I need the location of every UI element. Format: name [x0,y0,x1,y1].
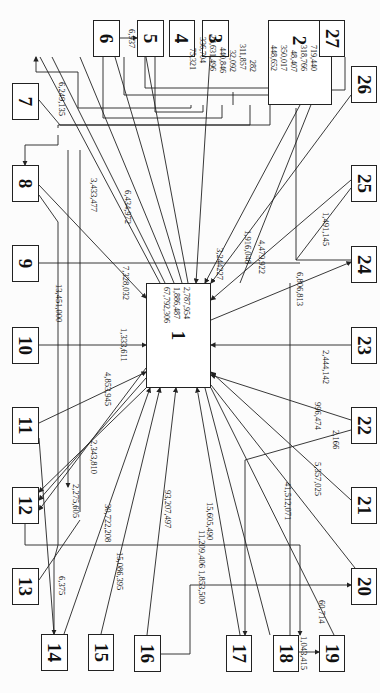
flow-label: 3,244227 [216,248,225,280]
node2-value: 282 [248,60,256,72]
node-5: 5 [137,20,164,57]
flow-label: 30,722,208 [104,504,113,542]
node-14: 14 [41,634,68,671]
node-label: 24 [355,255,374,274]
flow-label: 5,357,025 [314,462,323,496]
node-label: 1 [169,331,188,341]
node-label: 5 [141,34,160,44]
node-label: 14 [45,643,64,662]
flow-label: 15,086,395 [116,552,125,590]
flow-label: 15,605,490 [206,502,215,540]
flow-label: 6,249,135 [58,82,67,116]
flow-diagram: 1 2 3 4 5 6 7 8 9 10 11 12 13 14 15 16 1… [0,0,380,693]
flow-label: 41,512,071 [284,482,293,520]
node-23: 23 [351,327,377,364]
flow-label: 6,434,972 [124,190,133,224]
node-11: 11 [12,407,39,444]
flow-label: 7,328,032 [122,266,131,300]
node2-value: 32,092 [228,50,236,72]
node2-value: 318,766 [299,45,307,71]
node-18: 18 [273,635,299,672]
flow-label: 4,853,945 [104,372,113,406]
node-label: 21 [355,496,374,515]
node-label: 19 [323,644,342,663]
node-label: 7 [16,97,35,107]
node-13: 13 [12,568,39,605]
node2-value: 24,631,496 [208,35,216,71]
node-label: 27 [323,29,342,48]
flow-label: 93,207,497 [164,490,173,528]
flow-label: 996,474 [314,402,323,430]
node-label: 6 [97,34,116,44]
flow-label: 6,806,813 [296,272,305,306]
node-label: 4 [173,34,192,44]
node-label: 20 [355,577,374,596]
node2-value: 48,407 [289,50,297,72]
node2-value: 311,857 [238,44,246,70]
node-label: 17 [230,644,249,663]
node-label: 12 [16,496,35,515]
node2-value: 336,704 [198,37,206,63]
node-9: 9 [12,245,39,282]
flow-label: 1,043,415 [300,636,309,670]
flow-label: 6,375 [58,576,67,595]
node-22: 22 [351,407,377,444]
flow-label: 13,451,000 [55,284,64,322]
node2-value: 448,652 [269,45,277,71]
node-24: 24 [351,246,377,283]
node-label: 15 [92,643,111,662]
node1-value: 2,787,954 [182,287,190,319]
node-25: 25 [351,165,377,202]
flow-label: 6,937 [128,29,137,48]
node-12: 12 [12,487,39,524]
node-16: 16 [134,635,161,672]
node-label: 26 [355,75,374,94]
node-label: 11 [16,417,35,435]
node-label: 13 [16,577,35,596]
flow-label: 1,491,145 [322,212,331,246]
node-label: 25 [355,174,374,193]
node-17: 17 [226,635,252,672]
node-7: 7 [12,83,39,120]
node-label: 10 [16,336,35,355]
flow-label: 60,714 [318,600,327,623]
node2-value: 350,017 [279,45,287,71]
node2-value: 75,321 [188,48,196,70]
node-label: 18 [277,644,296,663]
node-label: 2 [291,36,310,46]
flow-label: 3,433,477 [90,178,99,212]
node-6: 6 [93,20,120,57]
node-10: 10 [12,327,39,364]
flow-label: 2,343,810 [90,440,99,474]
node-label: 8 [16,179,35,189]
node-26: 26 [351,66,377,103]
node-label: 16 [138,644,157,663]
node-27: 27 [319,20,345,57]
node-label: 9 [16,259,35,269]
node-20: 20 [351,568,377,605]
flow-label: 2,444,142 [322,350,331,384]
node2-value: 440,846 [218,47,226,73]
flow-label: 1,853,500 [198,570,207,604]
flow-label: 2,275,605 [72,484,81,518]
flow-label: 4,479,922 [258,240,267,274]
flow-label: 2,166 [332,430,341,449]
node-15: 15 [88,634,114,671]
node1-value: 67,792,306 [162,287,170,323]
flow-label: 1,333,611 [120,328,129,362]
node-8: 8 [12,165,39,202]
node-label: 22 [355,416,374,435]
node2-value: 719,440 [309,45,317,71]
node-21: 21 [351,487,377,524]
node1-value: 1,886,487 [172,287,180,319]
node-label: 23 [355,336,374,355]
flow-label: 1,916,048 [244,230,253,264]
node-19: 19 [319,635,345,672]
